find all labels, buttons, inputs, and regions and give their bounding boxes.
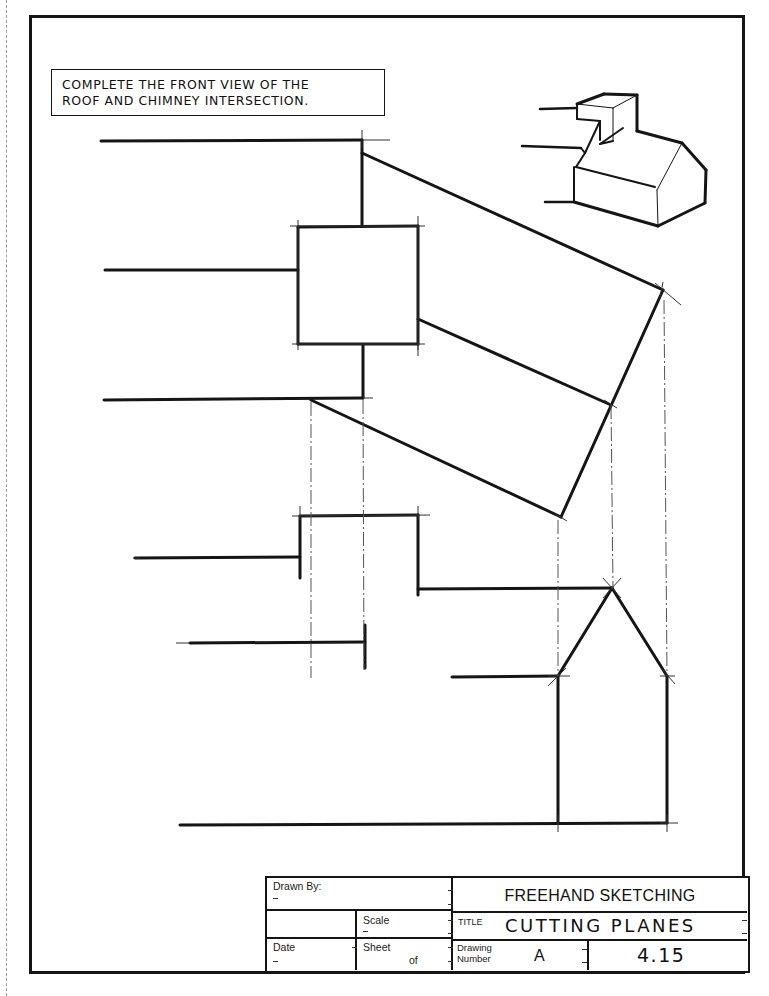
pictorial-edge: [574, 202, 658, 226]
tick: [352, 947, 357, 948]
tick: [448, 947, 453, 948]
object-line: [452, 676, 558, 677]
tick: [582, 962, 587, 963]
drawn-by-label: Drawn By:: [273, 881, 321, 892]
tick: [448, 933, 453, 934]
tick: [448, 961, 453, 962]
pictorial-edge: [657, 190, 658, 226]
title-label: TITLE: [458, 917, 483, 928]
sheet-of-label: of: [409, 955, 418, 966]
object-line: [418, 319, 611, 405]
object-line: [135, 557, 300, 558]
pictorial-edge: [613, 95, 637, 108]
pictorial-edge: [705, 170, 706, 203]
construction-lines: [133, 130, 681, 832]
date-label: Date: [273, 942, 295, 953]
object-line: [104, 398, 363, 400]
drawn-by-dash: [273, 898, 278, 899]
object-line: [190, 642, 365, 643]
pictorial-edge: [576, 153, 585, 167]
tick: [582, 949, 587, 950]
object-line: [311, 400, 561, 517]
drawing-title: CUTTING PLANES: [505, 915, 696, 936]
object-line: [362, 153, 663, 290]
pictorial-edge: [577, 104, 613, 108]
date-dash: [273, 961, 278, 962]
scale-dash: [363, 931, 368, 932]
tick: [448, 890, 453, 891]
pictorial-edge: [604, 94, 637, 95]
sheet-label: Sheet: [363, 942, 390, 953]
drawing-number-label-2: Number: [457, 953, 491, 964]
object-line: [101, 140, 362, 141]
pictorial-edge: [540, 108, 577, 109]
pictorial-edge: [522, 146, 581, 148]
blank-cell: [267, 911, 357, 939]
object-line: [558, 588, 612, 676]
pictorial-edge: [577, 119, 600, 121]
scale-label: Scale: [363, 915, 389, 926]
pictorial-edge: [585, 121, 600, 153]
drawing-number-label-1: Drawing: [457, 942, 492, 953]
tick: [448, 904, 453, 905]
drawing-number: 4.15: [637, 944, 685, 966]
projection-line: [363, 400, 364, 670]
projection-line: [611, 405, 613, 588]
tick: [448, 920, 453, 921]
drawing-letter: A: [534, 947, 545, 965]
pictorial-edge: [658, 203, 705, 226]
object-lines: [101, 140, 667, 825]
title-block: Drawn By: Scale Date Sheet of FREEHAND S…: [265, 876, 750, 973]
course-name: FREEHAND SKETCHING: [453, 887, 747, 905]
pictorial-house: [522, 94, 706, 226]
sketch-canvas: [0, 0, 769, 996]
object-line: [612, 588, 667, 676]
pictorial-edge: [577, 94, 604, 104]
tick: [742, 920, 747, 921]
pictorial-edge: [637, 131, 682, 143]
tick: [742, 933, 747, 934]
pictorial-edge: [657, 143, 682, 190]
projection-line: [664, 300, 667, 676]
object-line: [180, 823, 667, 825]
pictorial-edge: [682, 143, 706, 170]
object-line: [418, 588, 612, 589]
pictorial-edge: [576, 167, 655, 187]
